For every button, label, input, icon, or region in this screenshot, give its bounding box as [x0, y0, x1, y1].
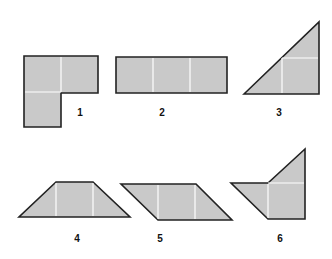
figure-6-label: 6 [277, 233, 283, 244]
figure-2-shape [116, 57, 227, 93]
figure-5-label: 5 [157, 233, 163, 244]
figure-1-label: 1 [77, 107, 83, 118]
figure-4: 4 [19, 182, 130, 244]
figure-5-shape [121, 184, 232, 220]
figure-6: 6 [231, 149, 305, 244]
figure-2-label: 2 [159, 107, 165, 118]
figure-5: 5 [121, 184, 232, 244]
figure-4-shape [19, 182, 130, 217]
figure-4-label: 4 [74, 233, 80, 244]
shapes-diagram: 1 2 3 4 5 6 [0, 0, 332, 259]
figure-3: 3 [244, 22, 319, 118]
figure-1: 1 [24, 56, 98, 127]
figure-2: 2 [116, 57, 227, 118]
figure-3-label: 3 [276, 107, 282, 118]
